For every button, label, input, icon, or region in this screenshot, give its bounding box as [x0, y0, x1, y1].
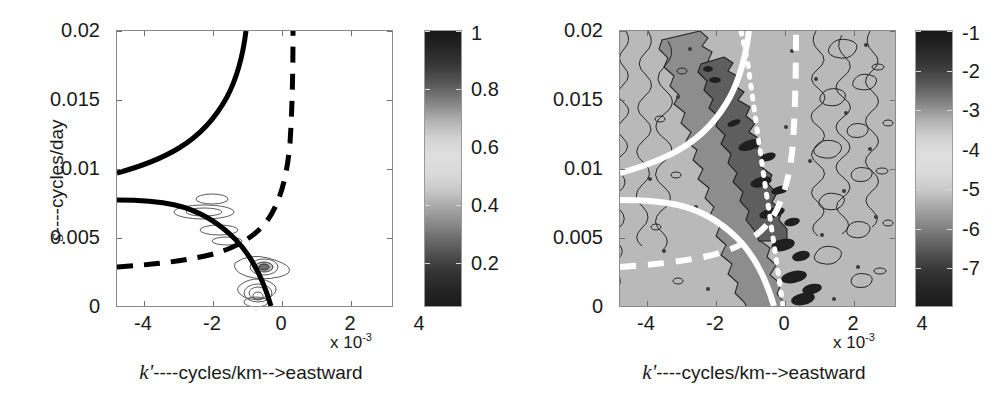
xtick--4-right: [647, 301, 648, 306]
cbar-tick--1-right: [916, 31, 921, 32]
ytick-0.02-right: [620, 31, 625, 32]
ytick-0.005-left: [117, 238, 122, 239]
ytick-0.01-left: [117, 169, 122, 170]
xtick-mirror--2-left: [213, 31, 214, 36]
colorbar-gradient-right: [916, 31, 952, 306]
xtick-2-left: [351, 301, 352, 306]
dispersion-curve-dashed-left: [117, 31, 293, 267]
xtick-label-2-right: 2: [847, 313, 858, 333]
cbar-label--6-right: -6: [962, 219, 980, 239]
dispersion-curve-solid-lower-left: [117, 200, 271, 306]
figure-root: 0.02 0.015 0.01 0.005 0 -4 -2 0 2 4 x 10…: [0, 0, 1005, 402]
cbar-tick--5-right: [916, 189, 921, 190]
cbar-tick-0.8-left: [425, 89, 430, 90]
xtick-4-left: [392, 301, 393, 306]
cbar-label--3-right: -3: [962, 100, 980, 120]
y-axis-title-left: s----cycles/day: [44, 51, 69, 311]
cbar-label--2-right: -2: [962, 61, 980, 81]
plot-area-right: [619, 30, 896, 307]
ytick-0.01-right: [620, 169, 625, 170]
cbar-tick-0.2-left: [425, 263, 430, 264]
x-axis-title-right: k'----cycles/km-->eastward: [503, 360, 1005, 385]
ytick-label-0.015-right: 0.015: [553, 89, 603, 109]
ytick-mirror-0.015-right: [890, 100, 895, 101]
cbar-label--4-right: -4: [962, 140, 980, 160]
ytick-mirror-0.015-left: [387, 100, 392, 101]
cbar-tick-1-left: [425, 31, 430, 32]
cbar-tick-mirror-0.2-left: [456, 263, 461, 264]
ytick-label-0.01-right: 0.01: [564, 158, 603, 178]
ytick-mirror-0.01-left: [387, 169, 392, 170]
cbar-tick--7-right: [916, 268, 921, 269]
ytick-0-right: [620, 306, 625, 307]
cbar-label-1-left: 1: [471, 23, 482, 43]
x-axis-title-rest-left: ----cycles/km-->eastward: [153, 362, 363, 383]
xtick--4-left: [144, 301, 145, 306]
cbar-label-0.4-left: 0.4: [471, 195, 499, 215]
xtick-label-4-left: 4: [413, 313, 424, 333]
xtick--2-left: [213, 301, 214, 306]
x-axis-exponent-left: x 10-3: [330, 331, 372, 353]
cbar-label--1-right: -1: [962, 23, 980, 43]
panel-left: 0.02 0.015 0.01 0.005 0 -4 -2 0 2 4 x 10…: [0, 0, 502, 402]
ytick-label-0.02-left: 0.02: [61, 20, 100, 40]
xtick-0-left: [282, 301, 283, 306]
ytick-mirror-0.02-left: [387, 31, 392, 32]
x-axis-title-rest-right: ----cycles/km-->eastward: [656, 362, 866, 383]
colorbar-right: -1 -2 -3 -4 -5 -6 -7: [915, 30, 953, 307]
ytick-label-0-left: 0: [89, 296, 100, 316]
colorbar-gradient-left: [425, 31, 461, 306]
cbar-tick--4-right: [916, 150, 921, 151]
cbar-tick-mirror-0.4-left: [456, 205, 461, 206]
cbar-tick--6-right: [916, 229, 921, 230]
cbar-tick-mirror--7-right: [947, 268, 952, 269]
xtick-mirror-0-right: [785, 31, 786, 36]
xtick-2-right: [854, 301, 855, 306]
ytick-mirror-0.005-right: [890, 238, 895, 239]
plot-canvas-right: [620, 31, 895, 306]
dispersion-curve-solid-upper-left: [117, 31, 246, 173]
x-axis-title-symbol-right: k': [642, 360, 656, 384]
ytick-mirror-0-left: [387, 306, 392, 307]
cbar-label-0.8-left: 0.8: [471, 79, 499, 99]
ytick-mirror-0.01-right: [890, 169, 895, 170]
cbar-tick-mirror--2-right: [947, 71, 952, 72]
cbar-tick-mirror--3-right: [947, 110, 952, 111]
xtick-0-right: [785, 301, 786, 306]
ytick-0.015-left: [117, 100, 122, 101]
ytick-0.015-right: [620, 100, 625, 101]
xtick-mirror--4-right: [647, 31, 648, 36]
xtick--2-right: [716, 301, 717, 306]
exponent-prefix-left: x 10: [330, 333, 362, 352]
xtick-label-0-left: 0: [275, 313, 286, 333]
y-axis-title-symbol-left: s: [44, 233, 68, 241]
xtick-label-4-right: 4: [916, 313, 927, 333]
ytick-0.005-right: [620, 238, 625, 239]
exponent-sup-right: -3: [865, 331, 875, 343]
xtick-label--2-left: -2: [203, 313, 221, 333]
ytick-label-0-right: 0: [592, 296, 603, 316]
y-axis-title-rest-left: ----cycles/day: [46, 119, 67, 233]
ytick-0-left: [117, 306, 122, 307]
xtick-label--4-left: -4: [134, 313, 152, 333]
cbar-label-0.2-left: 0.2: [471, 253, 499, 273]
xtick-mirror-2-right: [854, 31, 855, 36]
ytick-0.02-left: [117, 31, 122, 32]
ytick-mirror-0-right: [890, 306, 895, 307]
xtick-label-2-left: 2: [344, 313, 355, 333]
ytick-label-0.005-right: 0.005: [553, 227, 603, 247]
panel-right: 0.02 0.015 0.01 0.005 0 -4 -2 0 2 4 x 10…: [503, 0, 1005, 402]
xtick-mirror-0-left: [282, 31, 283, 36]
xtick-mirror--2-right: [716, 31, 717, 36]
ytick-mirror-0.02-right: [890, 31, 895, 32]
xtick-label--2-right: -2: [706, 313, 724, 333]
x-axis-title-symbol-left: k': [139, 360, 153, 384]
xtick-mirror-2-left: [351, 31, 352, 36]
cbar-tick-0.4-left: [425, 205, 430, 206]
cbar-tick-mirror-0.6-left: [456, 147, 461, 148]
cbar-tick--2-right: [916, 71, 921, 72]
ytick-mirror-0.005-left: [387, 238, 392, 239]
cbar-tick-mirror--6-right: [947, 229, 952, 230]
exponent-prefix-right: x 10: [833, 333, 865, 352]
cbar-tick-mirror-0.8-left: [456, 89, 461, 90]
